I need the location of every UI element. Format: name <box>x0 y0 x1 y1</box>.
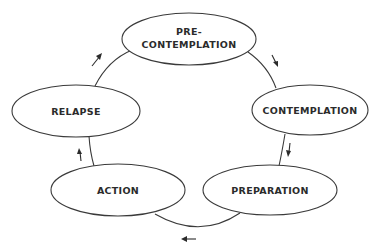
connector-preparation-to-action <box>155 213 240 227</box>
arrow-icon-contemplation-to-preparation <box>286 143 291 157</box>
stage-label: CONTEMPLATION <box>263 105 358 116</box>
stage-label: PREPARATION <box>231 185 308 196</box>
arrow-icon-relapse-to-precontemplation <box>92 53 102 66</box>
stage-action: ACTION <box>51 164 185 216</box>
connector-contemplation-to-preparation <box>279 134 285 166</box>
stage-preparation: PREPARATION <box>203 165 337 215</box>
stage-label: ACTION <box>97 185 139 196</box>
arrow-icon-preparation-to-action <box>181 236 196 242</box>
stages-of-change-diagram: PRE- CONTEMPLATION CONTEMPLATION PREPARA… <box>0 0 378 252</box>
arrow-icon-precontemplation-to-contemplation <box>272 55 278 67</box>
stage-contemplation: CONTEMPLATION <box>252 85 368 135</box>
stage-precontemplation: PRE- CONTEMPLATION <box>122 13 256 65</box>
stage-label-line-1: PRE- <box>176 26 202 37</box>
connector-action-to-relapse <box>89 136 94 166</box>
stage-label-line-2: CONTEMPLATION <box>142 39 237 50</box>
stage-label: RELAPSE <box>51 106 101 117</box>
arrow-icon-action-to-relapse <box>77 148 82 161</box>
connector-precontemplation-to-contemplation <box>248 52 276 88</box>
stage-relapse: RELAPSE <box>12 85 140 137</box>
